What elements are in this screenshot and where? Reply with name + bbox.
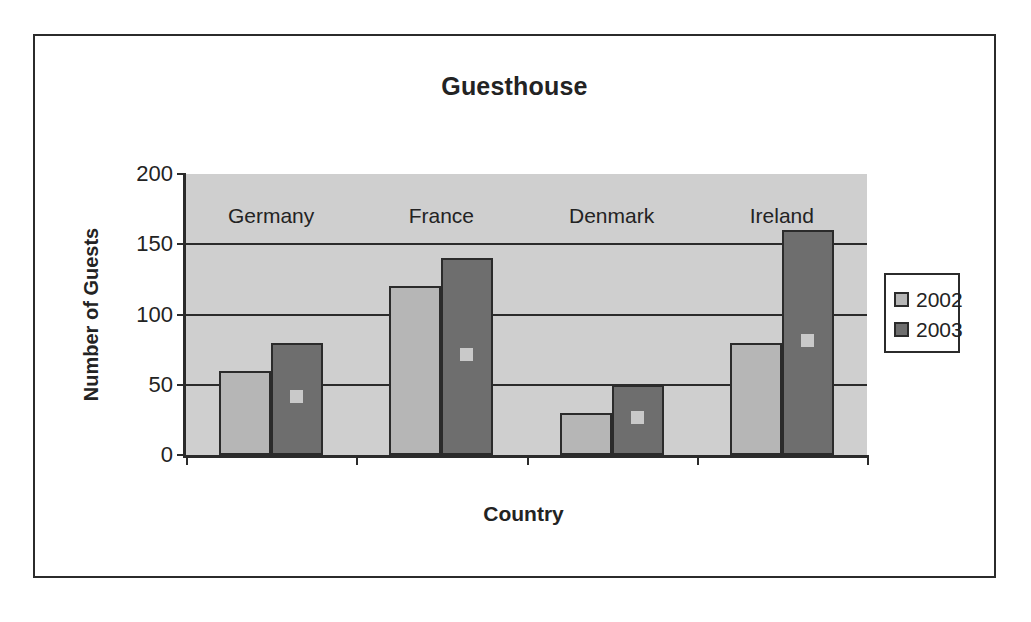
x-axis-tick (697, 455, 699, 465)
x-axis-tick (186, 455, 188, 465)
bar-ireland-2003[interactable] (782, 230, 834, 455)
legend-item-label: 2002 (916, 289, 963, 310)
y-axis-tick-label: 50 (149, 372, 173, 398)
y-axis-tick (177, 243, 186, 245)
plot-area: 050100150200GermanyFranceDenmarkIreland (183, 174, 867, 458)
x-axis-tick (867, 455, 869, 465)
legend-item-2003[interactable]: 2003 (894, 319, 950, 340)
x-axis-tick (527, 455, 529, 465)
bar-france-2003[interactable] (441, 258, 493, 455)
bar-ireland-2002[interactable] (730, 343, 782, 455)
bar-germany-2002[interactable] (219, 371, 271, 455)
x-axis-category-label: Denmark (527, 204, 697, 228)
bar-germany-2003[interactable] (271, 343, 323, 455)
legend-swatch-icon (894, 292, 909, 307)
bar-center-marker (460, 348, 473, 361)
chart-frame: Guesthouse Number of Guests 050100150200… (33, 34, 996, 578)
x-axis-tick (356, 455, 358, 465)
y-axis-tick-label: 100 (136, 302, 173, 328)
bar-france-2002[interactable] (389, 286, 441, 455)
y-axis-title-label: Number of Guests (81, 228, 104, 401)
bar-denmark-2002[interactable] (560, 413, 612, 455)
legend-item-2002[interactable]: 2002 (894, 289, 950, 310)
y-axis-title: Number of Guests (79, 174, 105, 455)
y-axis-tick (177, 454, 186, 456)
y-axis-tick-label: 0 (161, 442, 173, 468)
x-axis-title: Country (183, 502, 864, 526)
y-axis-tick-label: 200 (136, 161, 173, 187)
bar-center-marker (801, 334, 814, 347)
y-axis-tick (177, 314, 186, 316)
legend-item-label: 2003 (916, 319, 963, 340)
bar-center-marker (290, 390, 303, 403)
x-axis-category-label: Ireland (697, 204, 867, 228)
chart-title: Guesthouse (35, 72, 994, 101)
bar-denmark-2003[interactable] (612, 385, 664, 455)
x-axis-category-label: Germany (186, 204, 356, 228)
chart-legend: 2002 2003 (884, 273, 960, 353)
y-axis-tick-label: 150 (136, 231, 173, 257)
legend-swatch-icon (894, 322, 909, 337)
y-axis-tick (177, 384, 186, 386)
x-axis-category-label: France (356, 204, 526, 228)
bar-center-marker (631, 411, 644, 424)
y-axis-tick (177, 173, 186, 175)
